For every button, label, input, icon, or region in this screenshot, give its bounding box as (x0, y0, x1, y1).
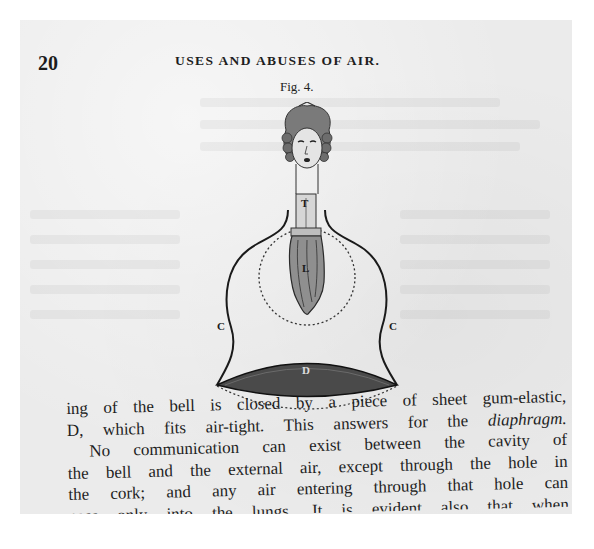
running-head: USES AND ABUSES OF AIR. (175, 53, 380, 69)
label-trachea: T (301, 197, 308, 209)
bell-jar-illustration (195, 102, 435, 412)
label-bell-right: C (389, 320, 397, 332)
bleed-through (30, 285, 180, 294)
label-lungs: L (302, 262, 309, 274)
bell-jar-figure: T L C C D (195, 102, 435, 412)
page-number: 20 (38, 52, 58, 75)
bleed-through (30, 210, 180, 219)
bleed-through (30, 310, 180, 319)
bleed-through (30, 235, 180, 244)
emphasis-diaphragm: diaphragm. (488, 408, 567, 429)
figure-caption: Fig. 4. (280, 79, 314, 95)
label-bell-left: C (217, 320, 225, 332)
bleed-through (30, 260, 180, 269)
body-paragraph: ing of the bell is closed by a piece of … (66, 386, 569, 514)
label-diaphragm: D (302, 364, 310, 376)
scanned-page: 20 USES AND ABUSES OF AIR. Fig. 4. (20, 20, 572, 514)
